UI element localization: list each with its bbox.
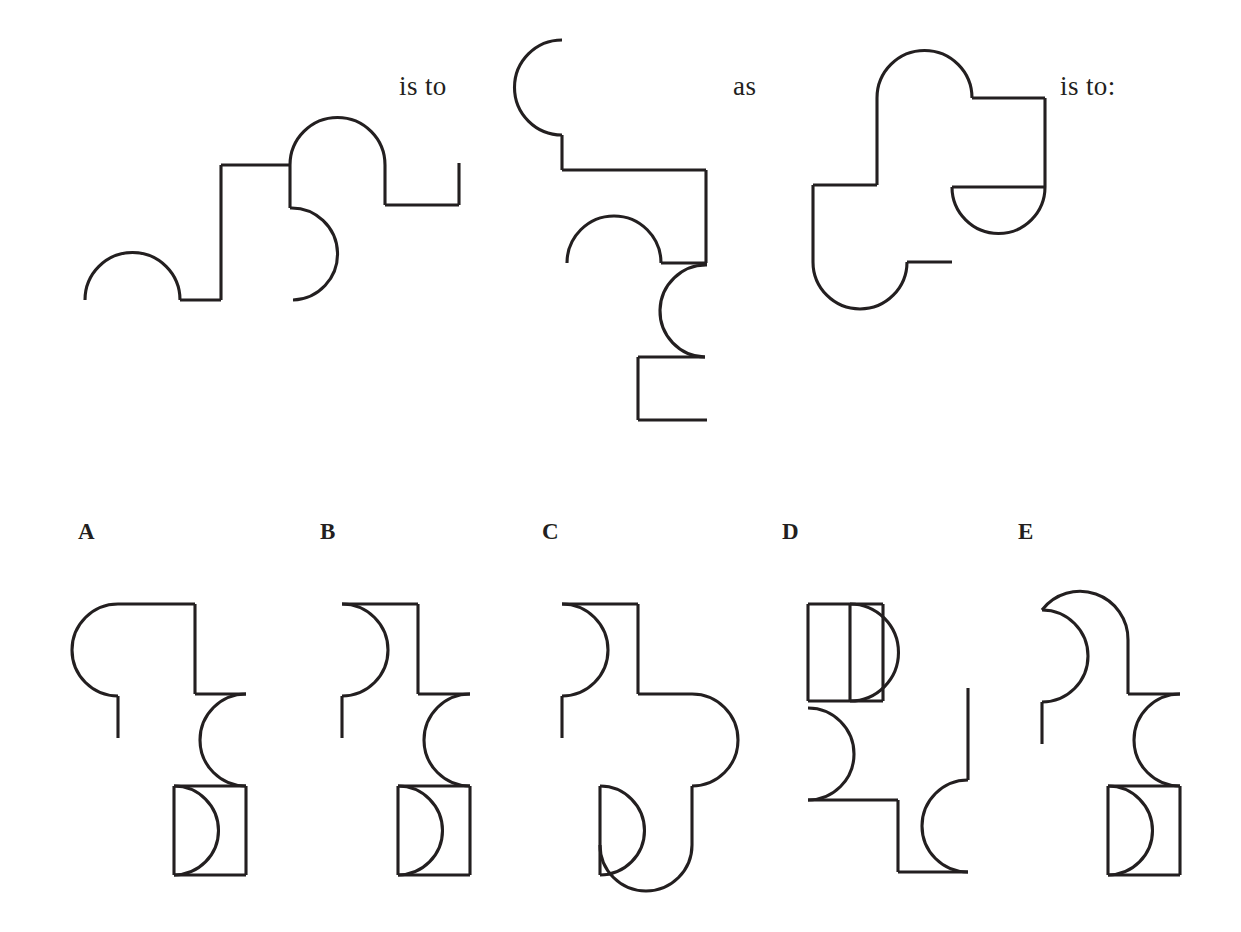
stem-figure-1: [0, 0, 520, 340]
opt-d-left-concave-arc: [808, 708, 854, 800]
option-letter-a: A: [78, 519, 95, 545]
stem1-inner-semicircle: [290, 208, 338, 300]
opt-d-detached-concave-arc: [922, 780, 968, 872]
opt-c-right-convex-lobe: [692, 694, 738, 786]
stem3-bottom-lobe-arc: [813, 262, 907, 309]
opt-c-bottom-pocket-arc: [600, 845, 692, 891]
option-letter-c: C: [542, 519, 559, 545]
option-d-figure[interactable]: [750, 560, 1000, 900]
stem2-top-hook-arc: [515, 40, 563, 135]
opt-d-inner-halfdisc: [850, 604, 898, 701]
opt-a-top-left-lobe: [72, 604, 195, 696]
option-e-figure[interactable]: [990, 560, 1220, 900]
opt-a-inner-halfdisc: [174, 786, 219, 875]
stem2-inner-dome-arc: [567, 216, 661, 263]
option-letter-d: D: [782, 519, 799, 545]
opt-c-inner-halfdisc: [600, 786, 645, 875]
opt-c-top-left-concave-arc: [562, 604, 608, 696]
connector-as: as: [733, 71, 756, 102]
option-c-figure[interactable]: [510, 560, 760, 920]
opt-e-inner-halfdisc: [1108, 786, 1153, 875]
stem1-dome-arc: [290, 118, 385, 165]
option-b-figure[interactable]: [290, 560, 520, 890]
stem3-hanging-halfdisc: [952, 187, 1045, 233]
option-letter-b: B: [320, 519, 335, 545]
option-a-figure[interactable]: [50, 560, 280, 890]
puzzle-root: is to as: [0, 0, 1241, 932]
opt-e-left-concave-arc: [1042, 610, 1088, 702]
connector-is-to-2: is to:: [1060, 71, 1116, 102]
opt-b-top-left-concave-arc: [342, 604, 388, 696]
option-letter-e: E: [1018, 519, 1033, 545]
stem-figure-3: [780, 0, 1100, 340]
opt-b-inner-halfdisc: [398, 786, 443, 875]
opt-e-right-concave-arc: [1134, 694, 1180, 786]
opt-b-right-concave-arc: [424, 694, 470, 786]
connector-is-to-1: is to: [399, 71, 447, 102]
stem-figure-2: [500, 0, 760, 450]
opt-e-top-dome-arc: [1042, 591, 1128, 640]
stem3-top-dome-arc: [877, 51, 972, 98]
stem1-left-semicircle: [85, 253, 180, 300]
stem2-right-semicircle: [660, 265, 707, 357]
opt-a-right-concave-arc: [200, 694, 246, 786]
